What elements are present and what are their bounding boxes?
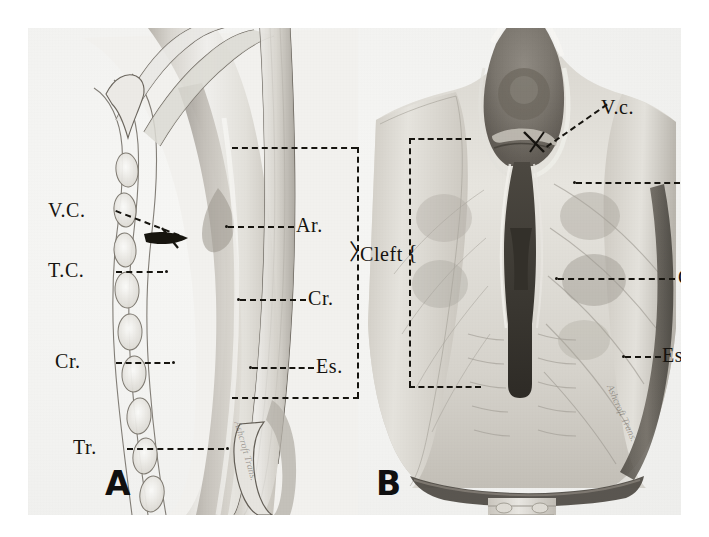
label-es-panel-b: Es. (662, 345, 681, 365)
illustration-plate: V.C. T.C. Cr. Tr. Ar. Cr. Es. A Ashcroft… (28, 28, 681, 515)
cleft-bracket-right: { (407, 241, 418, 263)
leader-dot-cr-panel-b (555, 277, 558, 280)
dashed-rect-b-top (409, 138, 471, 140)
leader-line-ar (228, 226, 294, 228)
leader-line-cr-right (240, 299, 306, 301)
leader-dot-cr-right (237, 298, 240, 301)
panel-letter-a: A (105, 467, 131, 500)
dashed-rect-a-top (232, 147, 357, 149)
label-tr-panel-b: Tr. (611, 513, 635, 515)
leader-line-es (252, 367, 314, 369)
label-tr-panel-a: Tr. (73, 437, 97, 457)
label-cr-right-panel-a: Cr. (308, 288, 334, 308)
leader-dot-tr (226, 447, 229, 450)
leader-line-es-panel-b (625, 356, 661, 358)
leader-line-cr-panel-b (558, 278, 675, 280)
panel-letter-b: B (376, 467, 401, 500)
label-ar-panel-a: Ar. (296, 215, 323, 235)
dashed-rect-a-right (357, 147, 359, 398)
label-cr-panel-b: Cr. (678, 267, 681, 287)
label-tc-panel-a: T.C. (48, 260, 84, 280)
leader-dot-es (249, 366, 252, 369)
dashed-rect-b-bottom (409, 386, 481, 388)
panel-b: V.c. Ar. Cr. Es. Tr. B Ashcroft Trans. (358, 28, 681, 515)
leader-dot-tc (165, 270, 168, 273)
label-vc-panel-a: V.C. (48, 200, 86, 220)
leader-line-cr-left (116, 362, 170, 364)
label-vc-panel-b: V.c. (601, 97, 634, 117)
panel-a: V.C. T.C. Cr. Tr. Ar. Cr. Es. A Ashcroft… (28, 28, 358, 515)
leader-line-ar-panel-b (576, 182, 680, 184)
figure-root: V.C. T.C. Cr. Tr. Ar. Cr. Es. A Ashcroft… (0, 0, 709, 537)
leader-dot-ar (225, 225, 228, 228)
dashed-rect-a-bottom (232, 397, 359, 399)
cleft-label: Cleft (360, 244, 403, 264)
leader-dot-cr-left (172, 361, 175, 364)
leader-dot-es-panel-b (622, 355, 625, 358)
leader-dot-ar-panel-b (573, 181, 576, 184)
label-es-panel-a: Es. (316, 356, 343, 376)
leader-line-tc (116, 271, 163, 273)
label-cr-left-panel-a: Cr. (55, 351, 81, 371)
leader-line-tr (127, 448, 224, 450)
